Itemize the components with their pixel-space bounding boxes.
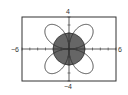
polar-plot [0, 0, 128, 95]
y-max-label: 4 [66, 8, 70, 15]
x-max-label: 6 [118, 46, 122, 53]
x-min-label: −6 [11, 46, 19, 53]
y-min-label: −4 [64, 83, 72, 90]
